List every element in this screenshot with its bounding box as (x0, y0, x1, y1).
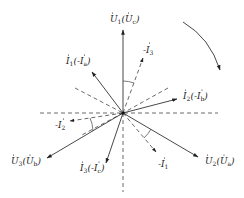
phasor-dots (13, 12, 225, 162)
phasor-I1 (92, 72, 123, 113)
angle-arc-negI1-U2 (144, 129, 151, 138)
diagonal-reference-line-left (75, 88, 123, 113)
label-I2: I2(-Ib) (182, 91, 208, 102)
label-I1: I1(-Ia) (65, 56, 91, 67)
label-U3: U3(Ub) (11, 156, 41, 167)
label-I3: I3(-Ic) (79, 163, 105, 174)
phasor-neg-I1 (123, 113, 156, 152)
rotation-direction-arrow (183, 22, 220, 70)
label-neg-I3: -I3 (143, 45, 154, 56)
phasor-U2 (123, 113, 198, 157)
angle-arc-U1-negI3 (123, 81, 134, 83)
phasors (47, 30, 198, 163)
phasor-diagram: U1(Uc) -I3 I1(-Ia) I2(-Ib) -I2 U3(Ub) I3… (0, 0, 244, 198)
label-neg-I1: -I1 (158, 159, 168, 170)
angle-arc-negI2-U3 (90, 118, 93, 131)
phasor-neg-I3 (123, 58, 143, 113)
phasor-I2 (123, 99, 177, 113)
diagonal-reference-line-right (123, 88, 168, 113)
label-U1: U1(Uc) (110, 14, 140, 25)
reference-axes (40, 88, 218, 192)
label-U2: U2(Ua) (205, 156, 235, 167)
origin-point (121, 111, 124, 114)
label-neg-I2: -I2 (55, 120, 66, 131)
